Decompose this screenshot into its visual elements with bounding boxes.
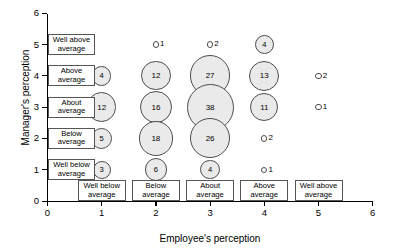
y-category-text: Well belowaverage	[53, 161, 90, 178]
bubble-value-label: 4	[262, 40, 266, 49]
y-tick-3	[42, 107, 47, 108]
bubble-value-label: 27	[206, 71, 215, 80]
x-tick-label-0: 0	[40, 208, 56, 218]
bubble-x5-y3	[315, 104, 321, 110]
bubble-value-label: 38	[206, 103, 215, 112]
bubble-value-label: 4	[208, 165, 212, 174]
bubble-x3-y2: 26	[190, 118, 230, 158]
bubble-value-label: 26	[206, 134, 215, 143]
bubble-chart: 01234560123456 Well belowaverageBelowave…	[0, 0, 397, 252]
y-tick-5	[42, 44, 47, 45]
x-tick-label-6: 6	[365, 208, 381, 218]
y-category-box-2: Belowaverage	[48, 128, 95, 149]
x-category-text: Well belowaverage	[83, 182, 120, 199]
x-tick-1	[101, 201, 102, 206]
x-tick-label-5: 5	[311, 208, 327, 218]
y-category-text: Aboveaverage	[58, 67, 85, 84]
bubble-value-label-outside: 2	[214, 40, 218, 48]
bubble-value-label: 12	[151, 71, 160, 80]
bubble-value-label-outside: 2	[269, 134, 273, 142]
y-category-text: Aboutaverage	[58, 99, 85, 116]
bubble-x2-y1: 6	[145, 158, 168, 181]
x-category-box-4: Aboveaverage	[240, 180, 288, 201]
bubble-x1-y1: 3	[93, 161, 111, 179]
x-category-text: Aboveaverage	[251, 182, 278, 199]
bubble-value-label: 3	[100, 165, 104, 174]
bubble-value-label: 13	[260, 71, 269, 80]
x-category-text: Belowaverage	[142, 182, 169, 199]
bubble-value-label: 6	[154, 165, 158, 174]
x-tick-label-1: 1	[94, 208, 110, 218]
y-tick-4	[42, 75, 47, 76]
bubble-value-label: 18	[151, 134, 160, 143]
bubble-value-label: 4	[100, 71, 104, 80]
x-category-text: Well aboveaverage	[300, 182, 337, 199]
y-tick-6	[42, 13, 47, 14]
bubble-x2-y5	[153, 41, 159, 47]
bubble-x4-y1	[261, 167, 267, 173]
y-tick-label-6: 6	[25, 8, 39, 18]
y-category-text: Belowaverage	[58, 130, 85, 147]
y-category-text: Well aboveaverage	[53, 36, 90, 53]
x-tick-4	[264, 201, 265, 206]
bubble-x2-y3: 16	[140, 91, 173, 124]
bubble-x5-y4	[315, 73, 321, 79]
bubble-value-label-outside: 1	[323, 103, 327, 111]
y-tick-2	[42, 138, 47, 139]
bubble-value-label: 12	[97, 103, 106, 112]
bubble-x2-y4: 12	[141, 61, 170, 90]
y-category-box-5: Well aboveaverage	[48, 34, 95, 55]
bubble-x3-y1: 4	[200, 160, 220, 180]
x-tick-0	[47, 201, 48, 206]
y-category-box-4: Aboveaverage	[48, 65, 95, 86]
x-category-box-2: Belowaverage	[132, 180, 180, 201]
bubble-value-label-outside: 2	[323, 72, 327, 80]
x-axis-title: Employee's perception	[47, 233, 373, 244]
y-tick-label-0: 0	[25, 196, 39, 206]
y-category-box-3: Aboutaverage	[48, 97, 95, 118]
bubble-value-label-outside: 1	[160, 40, 164, 48]
bubble-x4-y4: 13	[249, 61, 279, 91]
bubble-x4-y3: 11	[250, 93, 278, 121]
x-tick-6	[372, 201, 373, 206]
x-tick-label-2: 2	[148, 208, 164, 218]
x-tick-3	[210, 201, 211, 206]
x-category-text: Aboutaverage	[196, 182, 223, 199]
bubble-value-label: 11	[260, 103, 268, 112]
x-tick-label-4: 4	[256, 208, 272, 218]
x-category-box-3: Aboutaverage	[186, 180, 234, 201]
bubble-value-label: 5	[100, 134, 104, 143]
bubble-x4-y5: 4	[255, 35, 275, 55]
bubble-value-label: 16	[151, 103, 160, 112]
x-tick-label-3: 3	[202, 208, 218, 218]
x-tick-2	[155, 201, 156, 206]
bubble-value-label-outside: 1	[269, 166, 273, 174]
y-tick-1	[42, 169, 47, 170]
bubble-x2-y2: 18	[139, 121, 173, 155]
y-axis-title: Manager's perception	[20, 23, 31, 173]
x-tick-5	[318, 201, 319, 206]
bubble-x3-y5	[207, 41, 213, 47]
bubble-x4-y2	[261, 135, 267, 141]
x-category-box-5: Well aboveaverage	[295, 180, 343, 201]
y-category-box-1: Well belowaverage	[48, 159, 95, 180]
x-category-box-1: Well belowaverage	[78, 180, 126, 201]
